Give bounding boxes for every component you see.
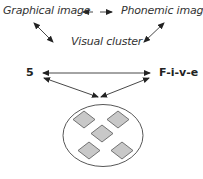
node-phonemic-image: Phonemic image [121,4,203,17]
diagram-canvas: Graphical image Phonemic image Visual cl… [0,0,203,179]
arrow-spelled-cluster [101,78,149,97]
node-visual-cluster: Visual cluster [71,35,142,48]
arrow-digit-cluster [44,78,98,97]
arrow-graphical-visual [34,23,53,42]
node-graphical-image: Graphical image [3,4,90,17]
arrow-phonemic-visual [144,23,164,42]
diagram-svg [0,0,203,179]
node-digit-five: 5 [26,66,34,79]
node-spelled-five: F-i-v-e [159,66,198,79]
